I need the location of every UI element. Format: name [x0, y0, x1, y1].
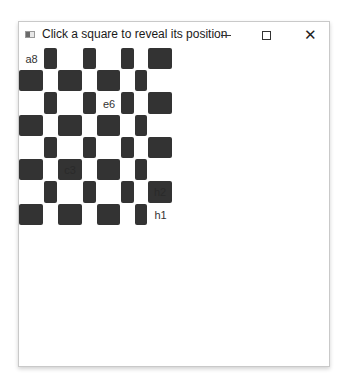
square-h6[interactable] — [148, 92, 172, 114]
square-c4[interactable] — [58, 137, 83, 159]
square-e7[interactable] — [97, 70, 120, 91]
square-a4[interactable] — [19, 137, 44, 159]
square-d5[interactable] — [83, 115, 97, 137]
title-bar[interactable]: Click a square to reveal its position ✕ — [19, 22, 329, 48]
square-b7[interactable] — [44, 70, 58, 92]
square-e5[interactable] — [97, 115, 120, 136]
square-e6[interactable]: e6 — [97, 92, 121, 115]
square-d7[interactable] — [83, 70, 97, 92]
square-e3[interactable] — [97, 159, 120, 180]
square-label: a8 — [25, 53, 37, 65]
window-title: Click a square to reveal its position — [42, 27, 227, 41]
square-c2[interactable] — [58, 181, 83, 204]
square-c5[interactable] — [58, 115, 82, 136]
square-f1[interactable] — [121, 204, 135, 226]
square-h1[interactable]: h1 — [148, 204, 173, 226]
square-label: h2 — [154, 186, 166, 198]
square-d8[interactable] — [83, 48, 96, 69]
square-h8[interactable] — [148, 48, 172, 69]
square-g3[interactable] — [135, 159, 147, 180]
square-f2[interactable] — [121, 181, 134, 203]
app-icon — [25, 31, 35, 38]
square-b2[interactable] — [44, 181, 57, 203]
square-b8[interactable] — [44, 48, 57, 69]
square-c6[interactable] — [58, 92, 83, 115]
square-e8[interactable] — [97, 48, 121, 70]
square-h4[interactable] — [148, 137, 172, 158]
square-h7[interactable] — [148, 70, 173, 92]
minimize-button[interactable] — [206, 22, 246, 48]
square-d6[interactable] — [83, 92, 96, 114]
square-h5[interactable] — [148, 115, 173, 137]
square-f6[interactable] — [121, 92, 134, 114]
square-e1[interactable] — [97, 204, 120, 225]
square-b6[interactable] — [44, 92, 57, 114]
maximize-icon — [262, 31, 271, 40]
maximize-button[interactable] — [246, 22, 286, 48]
square-a1[interactable] — [19, 204, 43, 225]
square-a6[interactable] — [19, 92, 44, 115]
square-d2[interactable] — [83, 181, 96, 203]
square-label: h1 — [154, 209, 166, 221]
square-f8[interactable] — [121, 48, 134, 69]
square-b5[interactable] — [44, 115, 58, 137]
square-a5[interactable] — [19, 115, 43, 136]
close-button[interactable]: ✕ — [290, 22, 330, 48]
square-g8[interactable] — [135, 48, 148, 70]
square-g5[interactable] — [135, 115, 147, 136]
square-b1[interactable] — [44, 204, 58, 226]
square-f3[interactable] — [121, 159, 135, 181]
square-h2[interactable]: h2 — [148, 181, 172, 203]
square-h3[interactable] — [148, 159, 173, 181]
square-c3[interactable]: c3 — [58, 159, 82, 180]
square-c1[interactable] — [58, 204, 82, 225]
square-g4[interactable] — [135, 137, 148, 159]
square-e2[interactable] — [97, 181, 121, 204]
square-e4[interactable] — [97, 137, 121, 159]
square-a8[interactable]: a8 — [19, 48, 44, 70]
square-b3[interactable] — [44, 159, 58, 181]
square-f4[interactable] — [121, 137, 134, 158]
square-f5[interactable] — [121, 115, 135, 137]
square-g7[interactable] — [135, 70, 147, 91]
square-d1[interactable] — [83, 204, 97, 226]
square-a7[interactable] — [19, 70, 43, 91]
square-g2[interactable] — [135, 181, 148, 204]
square-b4[interactable] — [44, 137, 57, 158]
square-d3[interactable] — [83, 159, 97, 181]
square-c7[interactable] — [58, 70, 82, 91]
square-d4[interactable] — [83, 137, 96, 158]
square-a2[interactable] — [19, 181, 44, 204]
square-g1[interactable] — [135, 204, 147, 225]
square-f7[interactable] — [121, 70, 135, 92]
minimize-icon — [221, 35, 231, 36]
app-window: Click a square to reveal its position ✕ … — [18, 21, 330, 367]
square-label: c3 — [64, 164, 76, 176]
close-icon: ✕ — [304, 28, 317, 43]
square-g6[interactable] — [135, 92, 148, 115]
square-label: e6 — [103, 98, 115, 110]
square-a3[interactable] — [19, 159, 43, 180]
square-c8[interactable] — [58, 48, 83, 70]
